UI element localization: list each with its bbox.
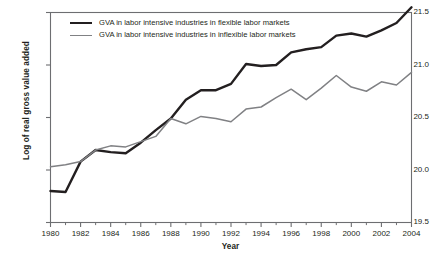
series-line-inflexible xyxy=(51,72,412,167)
series-line-flexible xyxy=(51,7,412,192)
axis-ticks xyxy=(46,13,412,228)
data-series xyxy=(51,7,412,192)
plot-frame xyxy=(51,13,412,223)
